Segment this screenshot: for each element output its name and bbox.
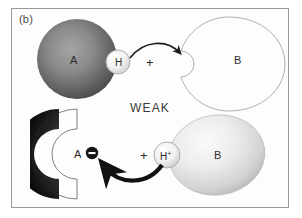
label-a-top: A [70,55,77,66]
plus-sign-bottom: + [140,149,148,162]
label-h-top: H [115,58,122,68]
label-b-top: B [234,55,241,66]
label-h-bottom: H+ [160,150,171,162]
label-h-bottom-charge: + [167,150,171,157]
weak-label: WEAK [12,101,288,115]
figure-root: (b) [0,0,302,218]
minus-charge-dash [89,152,96,154]
panel-label: (b) [19,13,33,25]
sphere-b-top-outline [181,17,285,111]
label-b-bottom: B [214,150,221,161]
label-a-bottom: A [74,149,81,160]
bottom-row-group [30,107,270,207]
figure-frame: (b) [11,8,289,208]
plus-sign-top: + [146,56,154,69]
curved-arrow-left-icon [107,165,162,181]
curved-arrow-right-icon [130,43,180,58]
